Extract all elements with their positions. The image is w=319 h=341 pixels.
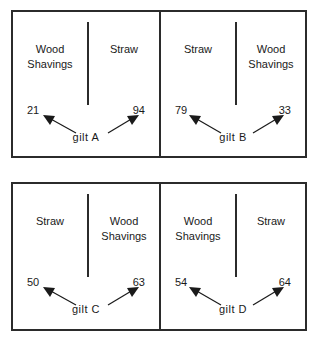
count-label-left: 79	[175, 104, 187, 116]
bedding-label: Straw	[89, 42, 159, 57]
preference-pen-diagram: Wood Shavings Straw 21 94 gilt A	[0, 0, 319, 341]
gilt-label: gilt A	[13, 131, 159, 143]
bedding-label: Wood Shavings	[237, 42, 305, 72]
pen-gilt-b: Straw Wood Shavings 79 33 gilt B	[161, 12, 305, 156]
pen-box-top: Wood Shavings Straw 21 94 gilt A	[11, 10, 307, 158]
bedding-label: Wood Shavings	[161, 214, 235, 244]
count-label-right: 64	[279, 276, 291, 288]
gilt-label: gilt B	[161, 131, 305, 143]
count-label-right: 33	[279, 104, 291, 116]
bedding-label: Straw	[161, 42, 235, 57]
pen-gilt-c: Straw Wood Shavings 50 63 gilt C	[13, 184, 159, 329]
count-label-right: 63	[133, 276, 145, 288]
pen-box-bottom: Straw Wood Shavings 50 63 gilt C	[11, 182, 307, 331]
count-label-left: 54	[175, 276, 187, 288]
pen-gilt-d: Wood Shavings Straw 54 64 gilt D	[161, 184, 305, 329]
bedding-label: Wood Shavings	[13, 42, 87, 72]
gilt-label: gilt C	[13, 303, 159, 315]
bedding-label: Straw	[13, 214, 87, 229]
gilt-label: gilt D	[161, 303, 305, 315]
bedding-label: Straw	[237, 214, 305, 229]
count-label-left: 50	[27, 276, 39, 288]
pen-gilt-a: Wood Shavings Straw 21 94 gilt A	[13, 12, 159, 156]
bedding-label: Wood Shavings	[89, 214, 159, 244]
count-label-right: 94	[133, 104, 145, 116]
count-label-left: 21	[27, 104, 39, 116]
